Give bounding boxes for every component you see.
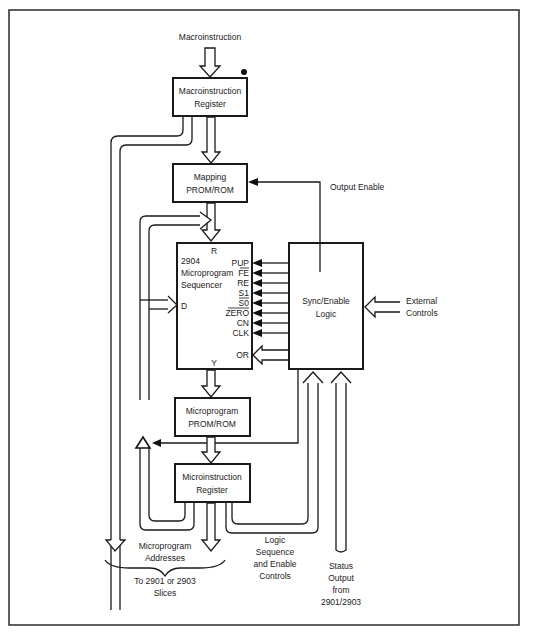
macro-bypass-arrowhead [106,540,125,551]
pipeline-enable-arrowhead [152,439,161,447]
sync-enable-logic-block: Sync/Enable Logic [289,243,363,369]
pin-zero: ZERO [225,308,249,318]
mapping-prom-block: Mapping PROM/ROM [173,164,247,202]
micro-prom-label-1: Microprogram [186,406,238,416]
sequencer-label-1: 2904 [181,256,200,266]
tristate-buffer-triangle [136,437,150,448]
status-output-arrowhead [331,372,351,383]
or-bus-arrow [253,346,289,364]
micro-register-label-1: Microinstruction [182,472,242,482]
logic-seq-label-4: Controls [259,571,291,581]
macroinstruction-input-label: Macroinstruction [179,32,242,42]
pin-or: OR [236,350,249,360]
macro-register-label-1: Macroinstruction [179,86,242,96]
status-label-2: Output [328,573,354,583]
micro-addresses-label-1: Microprogram [139,541,191,551]
sequencer-port-r: R [211,246,217,256]
control-signal-wires [252,259,289,337]
micro-prom-label-2: PROM/ROM [188,419,236,429]
external-controls-label-1: External [406,296,437,306]
macro-to-mapping-bus [202,117,220,163]
macroinstruction-input-arrow [200,48,220,77]
microprogram-block-diagram: Macroinstruction Macroinstruction Regist… [0,0,534,637]
microregister-to-slices-bus [202,503,220,551]
microprogram-prom-block: Microprogram PROM/ROM [175,398,250,436]
mapping-prom-label-1: Mapping [194,172,227,182]
status-output-bus [336,383,346,552]
sync-logic-label-1: Sync/Enable [302,296,350,306]
output-enable-label: Output Enable [330,182,385,192]
logic-control-arrowhead [303,372,323,383]
output-enable-arrowhead [248,178,258,186]
sequencer-label-2: Microprogram [181,268,233,278]
macroinstruction-register-block: Macroinstruction Register [173,78,247,116]
pin-fe: FE [238,268,249,278]
pin-clk: CLK [232,328,249,338]
external-controls-arrow [365,297,400,317]
logic-seq-label-3: and Enable [253,559,296,569]
microinstruction-register-block: Microinstruction Register [175,464,250,502]
status-label-3: from [333,585,350,595]
microprom-to-register-bus [202,437,220,463]
to-slices-label-2: Slices [154,588,177,598]
pin-s1: S1 [239,288,250,298]
macro-register-label-2: Register [194,99,226,109]
to-slices-label-1: To 2901 or 2903 [134,576,196,586]
pin-pup: PUP [232,258,250,268]
mapping-prom-label-2: PROM/ROM [186,185,234,195]
sequencer-to-microprom-bus [202,370,220,397]
external-controls-label-2: Controls [406,308,438,318]
status-label-4: 2901/2903 [321,597,361,607]
sequencer-port-d: D [181,301,187,311]
sequencer-label-3: Sequencer [181,280,222,290]
pin-re: RE [237,278,249,288]
sync-logic-label-2: Logic [316,309,337,319]
ink-mark [241,69,247,75]
status-label-1: Status [329,561,353,571]
logic-seq-label-2: Sequence [256,547,295,557]
sequencer-port-y: Y [211,358,217,368]
micro-addresses-label-2: Addresses [145,553,185,563]
d-input-arrowhead [168,296,177,313]
logic-seq-label-1: Logic [265,535,286,545]
pin-cn: CN [237,318,249,328]
pin-s0: S0 [239,298,250,308]
micro-register-label-2: Register [196,485,228,495]
